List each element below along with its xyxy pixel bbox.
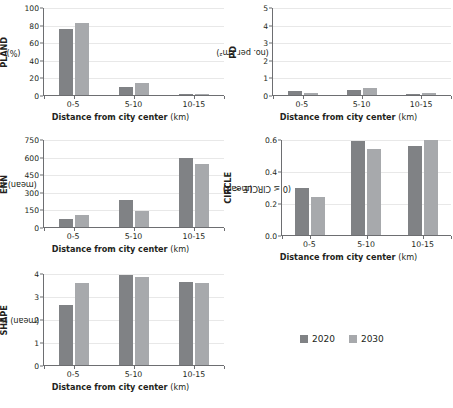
bar-shape-10-15-2020 [179,282,193,365]
bar-enn-0-5-2020 [59,219,73,227]
x-tick-mark [74,228,75,231]
bar-circle-5-10-2030 [367,149,381,235]
chart-legend: 2020 2030 [300,334,384,344]
x-tick-mark [44,96,45,99]
bar-shape-10-15-2030 [195,283,209,365]
x-category-label: 5-10 [103,370,163,379]
bar-group-5-10 [347,8,377,95]
legend-item-2020: 2020 [300,334,335,344]
x-axis-categories-pland: 0-55-1010-15 [43,100,224,109]
plot-box-enn [43,140,224,228]
bar-group-5-10 [351,140,381,235]
y-tick-label: 150 [25,206,40,215]
x-axis-categories-circle: 0-55-1010-15 [281,240,451,249]
bar-group-0-5 [59,8,89,95]
x-category-label: 10-15 [164,370,224,379]
x-axis-categories-enn: 0-55-1010-15 [43,232,224,241]
x-category-label: 10-15 [391,100,451,109]
y-tick-label: 1 [263,74,268,83]
x-tick-mark [134,366,135,369]
x-tick-mark [134,228,135,231]
x-category-label: 0-5 [272,100,332,109]
x-tick-mark [273,96,274,99]
y-axis-label-shape: SHAPE (mean) (≥ 1) [2,274,17,366]
x-tick-mark [74,96,75,99]
bar-group-0-5 [295,140,325,235]
y-tick-label: 3 [34,293,39,302]
bar-enn-10-15-2020 [179,158,193,227]
chart-panel-enn: ENN (mean) (m)01503004506007500-55-1010-… [2,140,224,262]
x-tick-mark [310,236,311,239]
x-axis-title-enn: Distance from city center (km) [17,244,224,254]
y-axis-label-enn: ENN (mean) (m) [2,140,17,228]
y-axis-ticks-pd: 012345 [246,8,272,96]
chart-panel-shape: SHAPE (mean) (≥ 1)012340-55-1010-15Dista… [2,274,224,400]
x-tick-mark [194,96,195,99]
y-tick-label: 0 [263,92,268,101]
y-axis-ticks-shape: 01234 [17,274,43,366]
y-tick-label: 0 [34,362,39,371]
bar-pland-5-10-2020 [119,87,133,95]
legend-item-2030: 2030 [349,334,384,344]
bar-pland-10-15-2030 [195,94,209,95]
plot-area-pland: 0204060801000-55-1010-15 [17,8,224,126]
bar-enn-0-5-2030 [75,215,89,227]
x-category-label: 5-10 [103,100,163,109]
x-tick-mark [303,96,304,99]
y-tick-label: 40 [29,56,39,65]
y-tick-label: 0.2 [265,200,277,209]
bar-enn-5-10-2020 [119,200,133,227]
bar-group-0-5 [59,274,89,365]
bar-pland-0-5-2030 [75,23,89,95]
legend-label-2030: 2030 [361,334,384,344]
bar-pd-0-5-2030 [304,93,318,95]
x-tick-mark [451,236,452,239]
x-category-label: 0-5 [281,240,338,249]
y-tick-label: 2 [34,316,39,325]
bar-shape-5-10-2030 [135,277,149,365]
x-axis-title-pd: Distance from city center (km) [246,112,451,122]
bar-series-container [44,140,224,227]
bar-group-0-5 [59,140,89,227]
x-category-label: 5-10 [338,240,395,249]
x-tick-mark [362,96,363,99]
legend-label-2020: 2020 [312,334,335,344]
y-tick-label: 0.0 [265,232,277,241]
x-axis-title-pland: Distance from city center (km) [17,112,224,122]
y-tick-label: 100 [25,4,40,13]
bar-pland-5-10-2030 [135,83,149,95]
x-category-label: 10-15 [164,100,224,109]
bar-pd-0-5-2020 [288,91,302,95]
bar-pland-0-5-2020 [59,29,73,95]
x-tick-mark [194,228,195,231]
y-tick-label: 20 [29,74,39,83]
x-axis-title-shape: Distance from city center (km) [17,382,224,392]
bar-circle-10-15-2030 [424,140,438,235]
bar-enn-5-10-2030 [135,211,149,227]
y-tick-label: 5 [263,4,268,13]
y-tick-label: 0 [34,92,39,101]
bar-circle-10-15-2020 [408,146,422,235]
bar-series-container [282,140,451,235]
bar-series-container [273,8,451,95]
bar-pland-10-15-2020 [179,94,193,95]
x-category-label: 10-15 [164,232,224,241]
x-tick-mark [44,366,45,369]
bar-group-5-10 [119,140,149,227]
x-category-label: 5-10 [332,100,392,109]
chart-panel-pland: PLAND (%)0204060801000-55-1010-15Distanc… [2,8,224,126]
x-axis-categories-shape: 0-55-1010-15 [43,370,224,379]
y-tick-label: 0 [34,224,39,233]
x-tick-mark [421,96,422,99]
bar-shape-0-5-2020 [59,305,73,365]
chart-panel-circle: CIRCLE (mean)(0 ≤ CIRCLE < 1)0.00.20.40.… [231,140,451,270]
bar-circle-5-10-2020 [351,141,365,235]
bar-shape-0-5-2030 [75,283,89,365]
bar-enn-10-15-2030 [195,164,209,227]
bar-circle-0-5-2020 [295,188,309,235]
y-tick-label: 0.6 [265,136,277,145]
bar-group-0-5 [288,8,318,95]
plot-area-pd: 0123450-55-1010-15 [246,8,451,126]
bar-pd-5-10-2020 [347,90,361,95]
x-tick-mark [134,96,135,99]
